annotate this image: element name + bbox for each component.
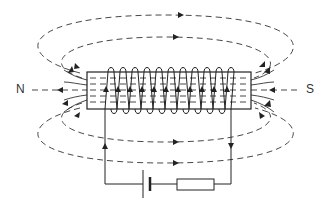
diagram-graphic bbox=[0, 0, 329, 213]
battery bbox=[143, 170, 150, 198]
resistor bbox=[177, 179, 214, 190]
solenoid-diagram: N S bbox=[0, 0, 329, 213]
north-pole-label: N bbox=[16, 82, 25, 96]
field-lines-bottom bbox=[38, 103, 293, 163]
circuit-wires bbox=[105, 109, 231, 184]
circuit-arrows bbox=[102, 143, 234, 149]
south-pole-label: S bbox=[306, 82, 314, 96]
